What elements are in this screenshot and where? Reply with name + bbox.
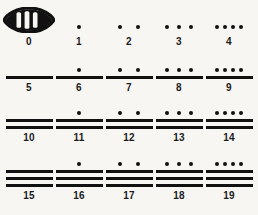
dot-icon [239, 162, 243, 166]
dot-group [155, 158, 203, 170]
bar-icon [156, 184, 203, 187]
dot-group [55, 21, 103, 33]
bar-icon [106, 170, 153, 173]
bar-icon [106, 126, 153, 129]
numeral-cell-18: 18 [154, 144, 204, 202]
numeral-label: 8 [176, 82, 182, 94]
dot-icon [77, 68, 81, 72]
dot-icon [165, 111, 169, 115]
dot-icon [177, 111, 181, 115]
bar-icon [56, 126, 103, 129]
bar-icon [6, 76, 53, 79]
bar-group [205, 76, 253, 79]
bar-group [105, 76, 153, 79]
dot-icon [231, 162, 235, 166]
numeral-glyph [205, 107, 253, 129]
numeral-row: 1516171819 [0, 144, 258, 202]
numeral-cell-7: 7 [104, 48, 154, 94]
numeral-glyph [105, 21, 153, 33]
bar-icon [206, 126, 253, 129]
numeral-cell-6: 6 [54, 48, 104, 94]
dot-icon [215, 68, 219, 72]
dot-icon [177, 68, 181, 72]
dot-icon [223, 111, 227, 115]
dot-icon [239, 68, 243, 72]
dot-icon [77, 25, 81, 29]
numeral-label: 3 [176, 36, 182, 48]
bar-icon [156, 76, 203, 79]
bar-icon [206, 76, 253, 79]
dot-group [105, 64, 153, 76]
dot-group [205, 64, 253, 76]
numeral-cell-2: 2 [104, 4, 154, 48]
dot-icon [239, 25, 243, 29]
dot-group [205, 21, 253, 33]
bar-group [155, 119, 203, 129]
bar-icon [56, 119, 103, 122]
dot-icon [231, 111, 235, 115]
dot-icon [223, 162, 227, 166]
numeral-cell-1: 1 [54, 4, 104, 48]
dot-icon [189, 68, 193, 72]
numeral-cell-8: 8 [154, 48, 204, 94]
numeral-glyph [205, 64, 253, 79]
numeral-glyph [155, 21, 203, 33]
numeral-glyph [55, 107, 103, 129]
dot-group [5, 158, 53, 170]
numeral-label: 15 [23, 190, 35, 202]
numeral-cell-11: 11 [54, 94, 104, 144]
numeral-cell-4: 4 [204, 4, 254, 48]
bar-icon [56, 177, 103, 180]
dot-group [55, 64, 103, 76]
numeral-label: 4 [226, 36, 232, 48]
numeral-glyph [105, 64, 153, 79]
numeral-label: 2 [126, 36, 132, 48]
bar-group [205, 170, 253, 187]
dot-icon [165, 25, 169, 29]
dot-group [155, 107, 203, 119]
numeral-cell-16: 16 [54, 144, 104, 202]
bar-icon [206, 119, 253, 122]
bar-group [105, 170, 153, 187]
numeral-label: 16 [73, 190, 85, 202]
dot-icon [215, 111, 219, 115]
dot-group [155, 21, 203, 33]
numeral-label: 6 [76, 82, 82, 94]
numeral-row: 1011121314 [0, 94, 258, 144]
numeral-cell-13: 13 [154, 94, 204, 144]
dot-group [105, 158, 153, 170]
numeral-glyph [5, 3, 53, 33]
numeral-cell-19: 19 [204, 144, 254, 202]
dot-icon [189, 162, 193, 166]
dot-icon [231, 25, 235, 29]
dot-icon [136, 68, 140, 72]
numeral-cell-0: 0 [4, 4, 54, 48]
numeral-label: 19 [223, 190, 235, 202]
numeral-glyph [205, 21, 253, 33]
numeral-label: 9 [226, 82, 232, 94]
dot-group [5, 64, 53, 76]
bar-icon [56, 76, 103, 79]
dot-icon [239, 111, 243, 115]
dot-icon [223, 68, 227, 72]
bar-icon [56, 184, 103, 187]
dot-icon [189, 111, 193, 115]
bar-group [155, 170, 203, 187]
dot-icon [177, 25, 181, 29]
bar-icon [6, 177, 53, 180]
numeral-label: 0 [26, 36, 32, 48]
bar-icon [106, 119, 153, 122]
bar-icon [6, 126, 53, 129]
numeral-cell-9: 9 [204, 48, 254, 94]
bar-group [105, 119, 153, 129]
numeral-glyph [155, 64, 203, 79]
dot-icon [136, 25, 140, 29]
bar-group [55, 170, 103, 187]
numeral-cell-14: 14 [204, 94, 254, 144]
numeral-label: 11 [74, 132, 85, 144]
numeral-label: 7 [126, 82, 132, 94]
numeral-label: 13 [173, 132, 185, 144]
numeral-glyph [55, 158, 103, 187]
dot-icon [136, 162, 140, 166]
bar-icon [156, 126, 203, 129]
